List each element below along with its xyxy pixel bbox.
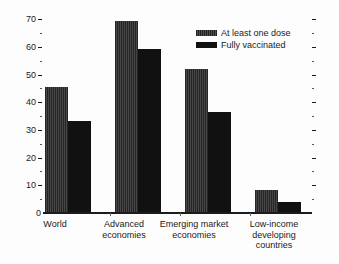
bar-group-advanced-economies: [115, 12, 161, 213]
right-tick-mark: [312, 75, 316, 76]
bar-advanced-at-least-one-dose: [115, 21, 138, 213]
y-tick-label: 60: [26, 43, 36, 52]
x-label-line: World: [22, 219, 88, 230]
x-label-line: Emerging market: [155, 219, 233, 230]
legend-swatch-icon: [196, 30, 217, 36]
legend-label: At least one dose: [221, 29, 291, 38]
y-tick-mark: [40, 61, 42, 62]
x-label-line: countries: [239, 240, 309, 251]
category-separator: [110, 213, 111, 216]
y-tick-mark: [38, 19, 42, 20]
y-tick-label: 50: [26, 71, 36, 80]
y-tick-label: 20: [26, 154, 36, 163]
right-tick-mark: [312, 130, 316, 131]
category-separator: [250, 213, 251, 216]
right-tick-mark: [312, 171, 314, 172]
y-tick-label: 30: [26, 126, 36, 135]
y-tick-mark: [38, 47, 42, 48]
x-label-low-income-developing-countries: Low-income developing countries: [239, 219, 309, 251]
bar-world-fully-vaccinated: [68, 121, 91, 213]
right-tick-mark: [312, 144, 314, 145]
right-tick-mark: [312, 33, 314, 34]
x-label-world: World: [22, 219, 88, 230]
y-tick-mark: [40, 171, 42, 172]
x-label-line: Advanced: [90, 219, 158, 230]
y-tick-label: 0: [36, 209, 41, 218]
right-axis-ticks: [312, 0, 339, 264]
bar-emerging-fully-vaccinated: [208, 112, 231, 213]
y-tick-label: 40: [26, 98, 36, 107]
y-tick-mark: [38, 185, 42, 186]
y-tick-label: 10: [26, 181, 36, 190]
y-tick-mark: [40, 144, 42, 145]
x-label-line: Low-income: [239, 219, 309, 230]
right-tick-mark: [312, 19, 316, 20]
y-tick-mark: [38, 75, 42, 76]
bar-world-at-least-one-dose: [45, 87, 68, 213]
y-tick-mark: [40, 199, 42, 200]
legend-item-fully-vaccinated: Fully vaccinated: [196, 39, 291, 51]
right-tick-mark: [312, 61, 314, 62]
legend-label: Fully vaccinated: [221, 41, 286, 50]
x-axis-baseline: [43, 212, 312, 214]
right-tick-mark: [312, 199, 314, 200]
y-tick-label: 70: [26, 15, 36, 24]
bar-low-income-at-least-one-dose: [255, 190, 278, 213]
right-tick-mark: [312, 88, 314, 89]
y-tick-mark: [40, 88, 42, 89]
x-label-line: economies: [90, 230, 158, 241]
bar-advanced-fully-vaccinated: [138, 49, 161, 213]
right-tick-mark: [312, 116, 314, 117]
y-tick-mark: [40, 33, 42, 34]
legend-item-at-least-one-dose: At least one dose: [196, 27, 291, 39]
y-tick-mark: [38, 158, 42, 159]
bar-chart: 70 60 50 40 30: [0, 0, 339, 264]
x-label-line: developing: [239, 230, 309, 241]
x-label-line: economies: [155, 230, 233, 241]
x-label-emerging-market-economies: Emerging market economies: [155, 219, 233, 240]
y-tick-mark: [38, 102, 42, 103]
legend-swatch-icon: [196, 42, 217, 48]
right-tick-mark: [312, 185, 316, 186]
y-tick-mark: [40, 116, 42, 117]
x-label-advanced-economies: Advanced economies: [90, 219, 158, 240]
right-tick-mark: [312, 158, 316, 159]
right-tick-mark: [312, 47, 316, 48]
right-tick-mark: [312, 102, 316, 103]
bar-emerging-at-least-one-dose: [185, 69, 208, 213]
category-separator: [180, 213, 181, 216]
bar-group-world: [45, 12, 91, 213]
y-tick-mark: [38, 130, 42, 131]
legend: At least one dose Fully vaccinated: [196, 27, 291, 51]
